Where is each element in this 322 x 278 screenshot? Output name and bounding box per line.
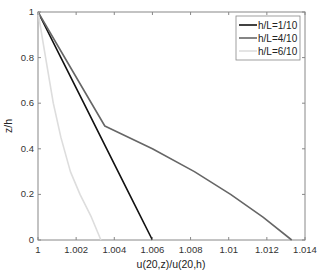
y-axis-label: z/h	[2, 119, 14, 133]
x-tick-label: 1.008	[179, 244, 203, 255]
x-tick-label: 1.004	[102, 244, 126, 255]
y-tick-label: 0.4	[21, 143, 34, 154]
legend-entry: h/L=1/10	[258, 20, 298, 31]
x-tick-label: 1.014	[293, 244, 317, 255]
y-tick-label: 1	[29, 6, 34, 17]
x-tick-label: 1	[35, 244, 40, 255]
x-axis-label: u(20,z)/u(20,h)	[137, 258, 206, 270]
legend-entry: h/L=6/10	[258, 46, 298, 57]
x-tick-label: 1.002	[64, 244, 88, 255]
y-tick-label: 0	[29, 234, 34, 245]
legend: h/L=1/10h/L=4/10h/L=6/10	[236, 16, 300, 60]
series-line-3	[38, 12, 101, 240]
x-tick-label: 1.01	[219, 244, 238, 255]
chart: 11.0021.0041.0061.0081.011.0121.01400.20…	[0, 0, 322, 278]
y-tick-label: 0.2	[21, 188, 34, 199]
y-tick-label: 0.6	[21, 97, 34, 108]
y-tick-label: 0.8	[21, 52, 34, 63]
x-tick-label: 1.006	[141, 244, 165, 255]
legend-entry: h/L=4/10	[258, 33, 298, 44]
series-line-1	[38, 12, 152, 240]
x-tick-label: 1.012	[255, 244, 279, 255]
